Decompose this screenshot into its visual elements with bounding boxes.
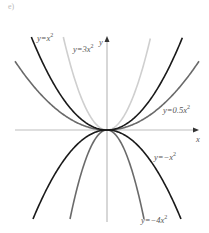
x-axis-label: x xyxy=(196,135,200,144)
y-axis-label: y xyxy=(99,38,103,47)
label-y-3x2: y=3x2 xyxy=(73,43,94,54)
label-y-neg-x2: y=−x2 xyxy=(154,151,176,162)
parabola-chart xyxy=(0,0,209,233)
y-axis-arrow-icon xyxy=(105,36,110,42)
label-y-0.5x2: y=0.5x2 xyxy=(163,104,190,115)
label-y-neg-4x2: y=−4x2 xyxy=(141,214,167,225)
label-y-x2: y=x2 xyxy=(37,32,53,43)
x-axis-arrow-icon xyxy=(193,128,199,133)
